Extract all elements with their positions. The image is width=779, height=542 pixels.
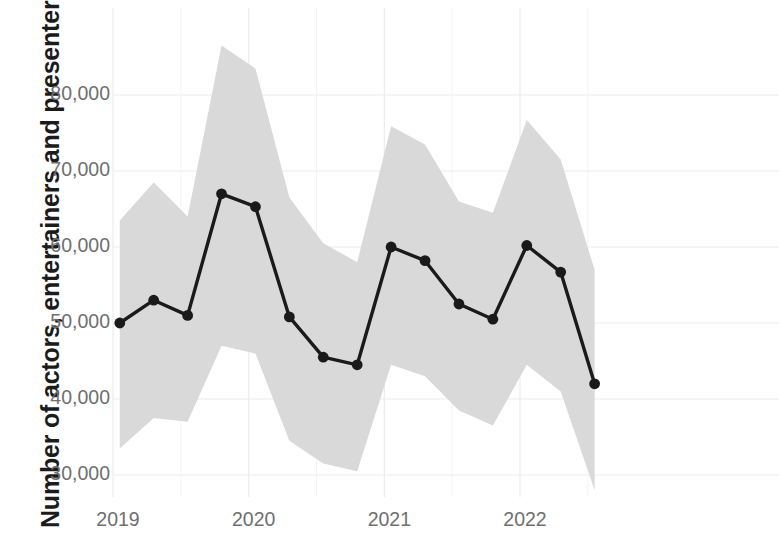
- confidence-band: [120, 46, 595, 491]
- data-point: [386, 242, 397, 253]
- data-point: [216, 188, 227, 199]
- data-point: [250, 201, 261, 212]
- data-point: [284, 312, 295, 323]
- data-point: [114, 318, 125, 329]
- data-point: [420, 255, 431, 266]
- data-point: [589, 378, 600, 389]
- data-point: [182, 310, 193, 321]
- data-point: [454, 299, 465, 310]
- data-point: [352, 359, 363, 370]
- data-point: [487, 314, 498, 325]
- plot-area: [0, 0, 779, 542]
- data-point: [148, 295, 159, 306]
- data-point: [521, 240, 532, 251]
- line-chart: Number of actors, entertainers and prese…: [0, 0, 779, 542]
- data-point: [318, 352, 329, 363]
- data-point: [555, 267, 566, 278]
